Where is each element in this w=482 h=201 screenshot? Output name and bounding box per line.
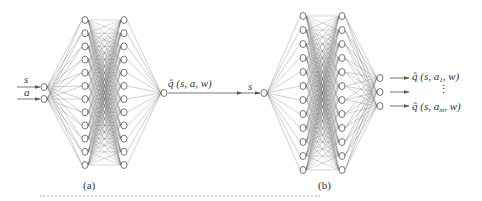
panel-a-connections <box>47 20 161 165</box>
neuron-node <box>377 75 383 82</box>
panel-b-caption: (b) <box>318 180 331 191</box>
neuron-node <box>300 97 306 104</box>
panel-b-output-label-m: q̂ (s, am, w) <box>412 101 461 116</box>
neuron-node <box>82 109 88 116</box>
panel-b-output-label-1: q̂ (s, a1, w) <box>412 71 459 86</box>
neuron-node <box>339 69 345 76</box>
neuron-node <box>161 90 167 97</box>
neuron-node <box>82 96 88 103</box>
neuron-node <box>339 139 345 146</box>
neuron-node <box>300 13 306 20</box>
neuron-node <box>339 83 345 90</box>
neuron-node <box>300 27 306 34</box>
panel-b-input-label-s: s <box>248 81 252 92</box>
neuron-node <box>121 69 127 76</box>
neuron-node <box>339 167 345 174</box>
neuron-node <box>339 41 345 48</box>
neuron-node <box>300 83 306 90</box>
neuron-node <box>121 82 127 89</box>
neuron-node <box>82 82 88 89</box>
neuron-node <box>121 17 127 24</box>
neuron-node <box>339 55 345 62</box>
panel-b-connections <box>267 16 377 170</box>
panel-a-output-label: q̂ (s, a, w) <box>168 78 212 89</box>
panel-b-network <box>242 13 409 174</box>
panel-b-vertical-ellipsis: ⋮ <box>438 84 449 95</box>
panel-a-input-label-a: a <box>24 87 30 98</box>
neuron-node <box>300 41 306 48</box>
neuron-node <box>82 30 88 37</box>
neuron-node <box>300 69 306 76</box>
neuron-node <box>339 27 345 34</box>
neuron-node <box>82 17 88 24</box>
neuron-node <box>300 139 306 146</box>
neuron-node <box>300 125 306 132</box>
neuron-node <box>41 84 47 91</box>
output-1-prefix: q̂ (s, a <box>412 70 439 82</box>
neuron-node <box>82 148 88 155</box>
output-m-suffix: , w) <box>444 100 461 112</box>
output-m-prefix: q̂ (s, a <box>412 100 439 112</box>
neuron-node <box>121 96 127 103</box>
panel-a-network <box>17 17 242 169</box>
neuron-node <box>377 89 383 96</box>
neuron-node <box>300 167 306 174</box>
neural-network-diagram <box>0 0 482 201</box>
neuron-node <box>339 13 345 20</box>
neuron-node <box>339 153 345 160</box>
neuron-node <box>121 43 127 50</box>
neuron-node <box>82 56 88 63</box>
neuron-node <box>121 109 127 116</box>
neuron-node <box>82 69 88 76</box>
neuron-node <box>82 135 88 142</box>
neuron-node <box>339 125 345 132</box>
output-1-suffix: , w) <box>443 70 460 82</box>
panel-a-input-label-s: s <box>24 74 28 85</box>
neuron-node <box>339 111 345 118</box>
neuron-node <box>82 162 88 169</box>
neuron-node <box>121 135 127 142</box>
neuron-node <box>121 56 127 63</box>
neuron-node <box>377 103 383 110</box>
neuron-node <box>121 148 127 155</box>
neuron-node <box>82 43 88 50</box>
neuron-node <box>121 162 127 169</box>
neuron-node <box>300 55 306 62</box>
neuron-node <box>41 96 47 103</box>
panel-a-caption: (a) <box>83 180 95 191</box>
neuron-node <box>82 122 88 129</box>
neuron-node <box>121 30 127 37</box>
neuron-node <box>339 97 345 104</box>
neuron-node <box>300 111 306 118</box>
figure-caption-illegible <box>40 195 320 197</box>
neuron-node <box>121 122 127 129</box>
neuron-node <box>261 90 267 97</box>
neuron-node <box>300 153 306 160</box>
